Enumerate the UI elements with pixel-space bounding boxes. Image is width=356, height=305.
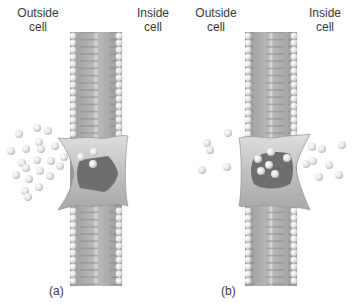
molecule-bound — [283, 154, 291, 162]
molecule-bound — [90, 148, 98, 156]
molecule-bound — [271, 170, 279, 178]
diagram-canvas — [0, 0, 356, 305]
free-molecules-a — [7, 124, 68, 201]
molecule-bound — [265, 161, 273, 169]
molecule-bound — [254, 155, 262, 163]
molecule-bound — [267, 148, 275, 156]
carrier-protein-a — [58, 136, 128, 210]
molecule-bound — [77, 153, 85, 161]
carrier-protein-b — [239, 134, 310, 210]
molecule-bound — [257, 167, 265, 175]
molecule-bound — [89, 160, 97, 168]
